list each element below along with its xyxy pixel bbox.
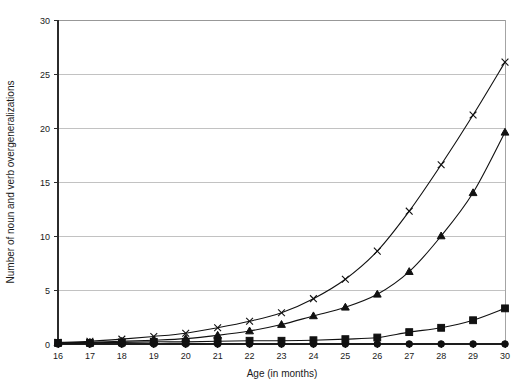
y-tick-label: 25 [40, 70, 50, 80]
y-tick-label: 10 [40, 232, 50, 242]
y-tick-label: 20 [40, 124, 50, 134]
y-tick-label: 0 [45, 340, 50, 350]
series-circle-marker [438, 341, 445, 348]
x-tick-label: 27 [404, 351, 414, 361]
y-tick-label: 30 [40, 16, 50, 26]
overgeneralizations-line-chart: 051015202530 161718192021222324252627282… [0, 0, 521, 391]
x-tick-label: 21 [213, 351, 223, 361]
x-tick-label: 23 [276, 351, 286, 361]
series-circle-marker [502, 341, 509, 348]
series-square-marker [502, 305, 509, 312]
chart-container: 051015202530 161718192021222324252627282… [0, 0, 521, 391]
x-axis-title: Age (in months) [247, 368, 318, 379]
y-tick-label: 5 [45, 286, 50, 296]
y-tick-label: 15 [40, 178, 50, 188]
x-tick-label: 24 [308, 351, 318, 361]
y-axis-title: Number of noun and verb overgeneralizati… [5, 81, 16, 284]
series-square-marker [342, 336, 349, 343]
x-tick-label: 25 [340, 351, 350, 361]
x-tick-label: 29 [468, 351, 478, 361]
series-square-marker [374, 334, 381, 341]
x-tick-label: 28 [436, 351, 446, 361]
series-square-marker [278, 337, 285, 344]
chart-background [0, 0, 521, 391]
x-tick-label: 22 [245, 351, 255, 361]
series-square-marker [438, 324, 445, 331]
series-square-marker [310, 337, 317, 344]
series-circle-marker [470, 341, 477, 348]
series-square-marker [246, 337, 253, 344]
x-tick-label: 30 [500, 351, 510, 361]
x-tick-label: 19 [149, 351, 159, 361]
x-tick-label: 26 [372, 351, 382, 361]
x-tick-label: 16 [53, 351, 63, 361]
series-square-marker [214, 338, 221, 345]
series-square-marker [470, 317, 477, 324]
x-tick-label: 18 [117, 351, 127, 361]
series-square-marker [406, 329, 413, 336]
x-tick-label: 17 [85, 351, 95, 361]
series-circle-marker [406, 341, 413, 348]
x-tick-label: 20 [181, 351, 191, 361]
series-circle-marker [374, 341, 381, 348]
